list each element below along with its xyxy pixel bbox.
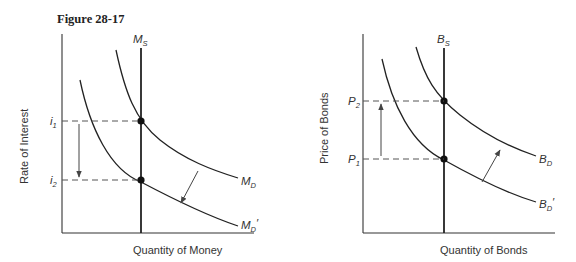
money-eq-point-1 xyxy=(137,117,144,124)
money-ylabel: Rate of Interest xyxy=(18,109,30,184)
bond-demand-new-curve xyxy=(382,59,536,202)
money-market-graph: Rate of Interest Quantity of Money MS i1… xyxy=(18,33,259,256)
money-eq-point-2 xyxy=(137,176,144,183)
diagram-canvas: Rate of Interest Quantity of Money MS i1… xyxy=(0,0,576,262)
bond-supply-label: BS xyxy=(437,33,450,48)
money-demand-curve xyxy=(116,50,238,178)
money-supply-label: MS xyxy=(133,33,148,48)
money-demand-shift-arrow xyxy=(181,171,198,203)
bond-demand-new-label: BD′ xyxy=(539,196,555,213)
money-demand-new-label: MD′ xyxy=(241,217,259,234)
bond-p2-label: P2 xyxy=(348,95,361,110)
money-demand-label: MD xyxy=(241,175,257,190)
bond-demand-shift-arrow xyxy=(482,150,500,182)
money-i1-label: i1 xyxy=(50,115,57,130)
bond-ylabel: Price of Bonds xyxy=(318,92,330,164)
bond-xlabel: Quantity of Bonds xyxy=(440,244,528,256)
bond-demand-label: BD xyxy=(539,153,553,168)
money-xlabel: Quantity of Money xyxy=(133,244,223,256)
money-i2-label: i2 xyxy=(50,174,58,189)
money-demand-new-curve xyxy=(80,80,238,226)
bond-p1-label: P1 xyxy=(348,153,360,168)
bond-market-graph: Price of Bonds Quantity of Bonds BS P2 P… xyxy=(318,33,555,256)
